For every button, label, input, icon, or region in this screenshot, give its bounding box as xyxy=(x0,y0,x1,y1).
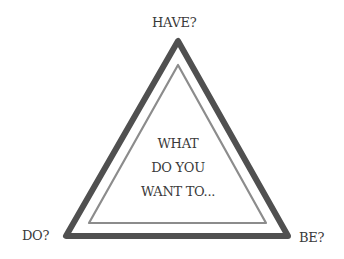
center-line-3: WANT TO... xyxy=(128,180,228,204)
triangle-graphic xyxy=(0,0,344,259)
center-question: WHAT DO YOU WANT TO... xyxy=(128,132,228,204)
center-line-1: WHAT xyxy=(128,132,228,156)
vertex-label-be: BE? xyxy=(299,230,324,245)
have-do-be-triangle-diagram: HAVE? DO? BE? WHAT DO YOU WANT TO... xyxy=(0,0,344,259)
center-line-2: DO YOU xyxy=(128,156,228,180)
vertex-label-do: DO? xyxy=(22,228,49,243)
vertex-label-have: HAVE? xyxy=(152,15,196,30)
